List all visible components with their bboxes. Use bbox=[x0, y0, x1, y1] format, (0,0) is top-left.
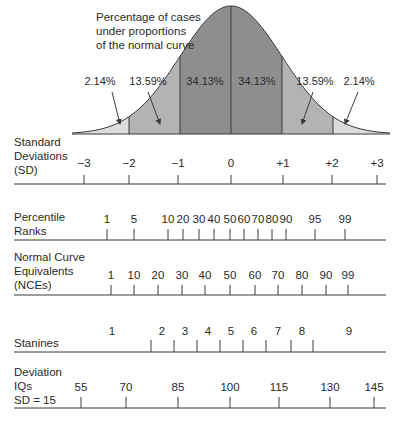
tick-label: 10 bbox=[128, 269, 141, 281]
scale-label: Ranks bbox=[14, 225, 47, 237]
tick-label: 99 bbox=[342, 269, 355, 281]
percent-label: 13.59% bbox=[296, 75, 334, 87]
tick-label: 60 bbox=[249, 269, 262, 281]
tick-label: −1 bbox=[171, 157, 184, 169]
chart-title: Percentage of casesunder proportionsof t… bbox=[96, 11, 201, 51]
tick-label: 5 bbox=[131, 213, 137, 225]
title-line: under proportions bbox=[96, 25, 186, 37]
tick-label: −2 bbox=[122, 157, 135, 169]
tick-label: 4 bbox=[205, 325, 212, 337]
percent-label: 34.13% bbox=[186, 75, 224, 87]
tick-label: 8 bbox=[299, 325, 305, 337]
percent-label: 2.14% bbox=[84, 75, 115, 87]
scale-label: Stanines bbox=[14, 337, 59, 349]
tick-label: 70 bbox=[120, 381, 133, 393]
tick-label: 20 bbox=[152, 269, 165, 281]
tick-label: 20 bbox=[177, 213, 190, 225]
pointer-arrow-icon bbox=[112, 92, 120, 124]
score-scales: StandardDeviations(SD)−3−2−10+1+2+3Perce… bbox=[14, 136, 386, 408]
scale-label: Normal Curve bbox=[14, 251, 85, 263]
tick-label: 5 bbox=[228, 325, 234, 337]
tick-label: 0 bbox=[228, 157, 234, 169]
region-lower-tail bbox=[72, 117, 129, 134]
tick-label: 1 bbox=[108, 269, 114, 281]
tick-label: 9 bbox=[346, 325, 352, 337]
tick-label: 50 bbox=[224, 269, 237, 281]
percent-label: 13.59% bbox=[129, 75, 167, 87]
tick-label: 30 bbox=[193, 213, 206, 225]
tick-label: 100 bbox=[220, 381, 239, 393]
tick-label: 1 bbox=[109, 325, 115, 337]
tick-label: 40 bbox=[208, 213, 221, 225]
scale-label: SD = 15 bbox=[14, 394, 56, 406]
scale-percentile-ranks: PercentileRanks151020304050607080909599 bbox=[14, 211, 386, 240]
tick-label: 60 bbox=[238, 213, 251, 225]
scale-label: (NCEs) bbox=[14, 279, 52, 291]
percent-label: 2.14% bbox=[343, 75, 374, 87]
tick-label: 90 bbox=[320, 269, 333, 281]
title-line: of the normal curve bbox=[96, 39, 194, 51]
tick-label: 7 bbox=[275, 325, 281, 337]
scale-deviation-iqs-sd-15: DeviationIQsSD = 15557085100115130145 bbox=[14, 366, 386, 408]
tick-label: −3 bbox=[77, 157, 90, 169]
tick-label: +3 bbox=[370, 157, 383, 169]
scale-label: IQs bbox=[14, 380, 32, 392]
tick-label: 145 bbox=[364, 381, 383, 393]
tick-label: 10 bbox=[162, 213, 175, 225]
title-line: Percentage of cases bbox=[96, 11, 201, 23]
pointer-arrow-icon bbox=[345, 92, 358, 124]
tick-label: 99 bbox=[339, 213, 352, 225]
tick-label: 130 bbox=[320, 381, 339, 393]
tick-label: 115 bbox=[270, 381, 288, 393]
normal-curve-chart: Percentage of casesunder proportionsof t… bbox=[0, 0, 403, 426]
scale-label: Standard bbox=[14, 136, 61, 148]
tick-label: 70 bbox=[272, 269, 285, 281]
region-upper-tail bbox=[333, 117, 390, 134]
scale-label: Deviations bbox=[14, 150, 68, 162]
tick-label: 55 bbox=[75, 381, 88, 393]
tick-label: 40 bbox=[199, 269, 212, 281]
scale-label: Equivalents bbox=[14, 265, 74, 277]
tick-label: 1 bbox=[104, 213, 110, 225]
scale-standard-deviations-sd: StandardDeviations(SD)−3−2−10+1+2+3 bbox=[14, 136, 386, 184]
tick-label: 6 bbox=[251, 325, 257, 337]
tick-label: 95 bbox=[309, 213, 322, 225]
scale-normal-curve-equivalents-nces: Normal CurveEquivalents(NCEs)11020304050… bbox=[14, 251, 386, 295]
tick-label: 80 bbox=[266, 213, 279, 225]
tick-label: +2 bbox=[325, 157, 338, 169]
tick-label: 30 bbox=[176, 269, 189, 281]
scale-label: (SD) bbox=[14, 164, 38, 176]
tick-label: 50 bbox=[224, 213, 237, 225]
percent-label: 34.13% bbox=[238, 75, 276, 87]
tick-label: 90 bbox=[280, 213, 293, 225]
tick-label: 80 bbox=[296, 269, 309, 281]
scale-label: Deviation bbox=[14, 366, 62, 378]
scale-stanines: Stanines123456789 bbox=[14, 325, 386, 352]
scale-label: Percentile bbox=[14, 211, 65, 223]
region-center-left bbox=[180, 6, 231, 134]
tick-label: 3 bbox=[182, 325, 188, 337]
tick-label: 2 bbox=[159, 325, 165, 337]
tick-label: +1 bbox=[276, 157, 289, 169]
tick-label: 85 bbox=[172, 381, 185, 393]
region-center-right bbox=[231, 6, 282, 134]
tick-label: 70 bbox=[252, 213, 265, 225]
